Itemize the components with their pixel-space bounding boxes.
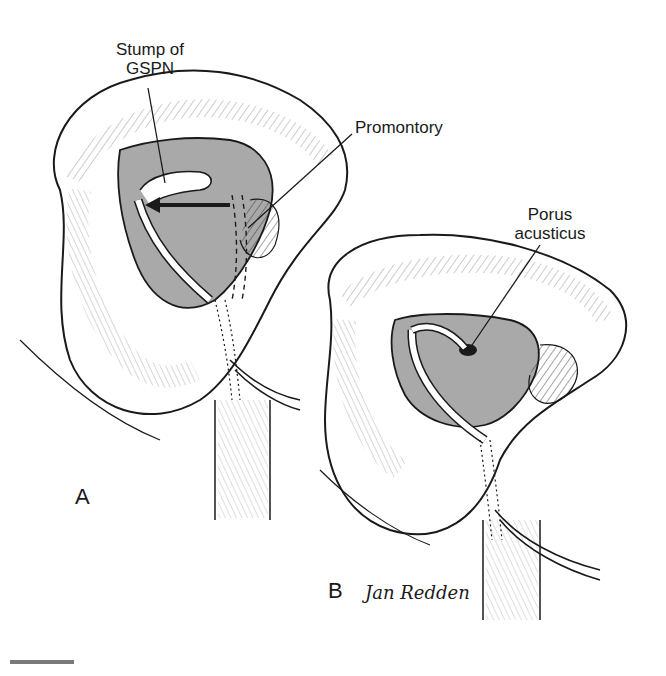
label-porus-line1: Porus xyxy=(505,205,595,224)
panel-letter-b: B xyxy=(328,578,343,604)
label-promontory: Promontory xyxy=(355,118,455,137)
artist-signature: Jan Redden xyxy=(365,582,470,603)
anatomical-illustration xyxy=(0,0,666,676)
panel-a-drawing xyxy=(20,70,347,520)
label-stump-of-gspn: Stump of GSPN xyxy=(100,40,200,78)
label-promontory-text: Promontory xyxy=(355,118,443,137)
label-porus-acusticus: Porus acusticus xyxy=(505,205,595,243)
label-gspn-line2: GSPN xyxy=(100,59,200,78)
label-porus-line2: acusticus xyxy=(505,224,595,243)
scale-bar xyxy=(10,660,74,664)
panel-b-drawing xyxy=(320,235,626,620)
panel-letter-a: A xyxy=(75,484,90,510)
label-gspn-line1: Stump of xyxy=(100,40,200,59)
